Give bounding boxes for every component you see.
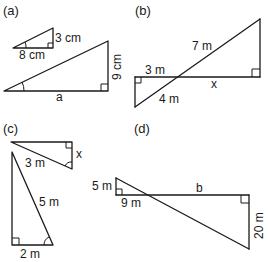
panel-d-label: (d): [134, 121, 150, 136]
small-triangle-opposite-label: 3 cm: [55, 31, 81, 45]
right-angle-marker: [48, 43, 53, 48]
large-triangle-base-label: 2 m: [20, 247, 40, 261]
upper-hypotenuse-label: 7 m: [192, 39, 212, 53]
angle-arc-marker: [22, 82, 24, 91]
small-triangle-hypotenuse-label: 3 m: [25, 156, 45, 170]
left-vertical-label: 5 m: [92, 179, 112, 193]
small-triangle-shape: [13, 28, 53, 48]
small-triangle-side-label: x: [76, 147, 82, 161]
large-triangle-opposite-label: 9 cm: [110, 54, 124, 80]
panel-a-label: (a): [3, 3, 19, 18]
right-horizontal-label: b: [196, 181, 203, 195]
small-triangle-adjacent-label: 8 cm: [19, 48, 45, 62]
right-angle-marker: [12, 238, 19, 245]
right-angle-marker-right: [252, 69, 260, 77]
right-vertical-label: 20 m: [252, 212, 266, 239]
large-triangle-hypotenuse-label: 5 m: [39, 195, 59, 209]
right-angle-marker-left: [116, 189, 122, 195]
panel-d: (d) 5 m 9 m b 20 m: [92, 121, 266, 249]
transversal-line: [116, 178, 249, 249]
left-segment-label: 3 m: [145, 63, 165, 77]
left-horizontal-label: 9 m: [121, 196, 141, 210]
lower-hypotenuse-label: 4 m: [159, 92, 179, 106]
large-triangle-adjacent-label: a: [56, 90, 63, 104]
right-angle-marker: [66, 142, 72, 148]
panel-c: (c) x 3 m 5 m 2 m: [3, 121, 82, 261]
panel-a: (a) 3 cm 8 cm 9 cm a: [3, 3, 124, 104]
panel-b-label: (b): [135, 3, 151, 18]
panel-a-small-triangle: [13, 28, 53, 48]
right-angle-marker-right: [241, 195, 249, 203]
angle-arc-marker: [65, 162, 72, 166]
right-angle-marker-left: [135, 77, 141, 83]
right-segment-label: x: [211, 77, 217, 91]
panel-c-label: (c): [3, 121, 18, 136]
right-angle-marker: [101, 84, 108, 91]
similar-triangles-figure: (a) 3 cm 8 cm 9 cm a (b) 7 m 3 m x 4 m (…: [0, 0, 268, 262]
angle-arc-marker: [44, 237, 49, 245]
panel-b: (b) 7 m 3 m x 4 m: [135, 3, 260, 107]
